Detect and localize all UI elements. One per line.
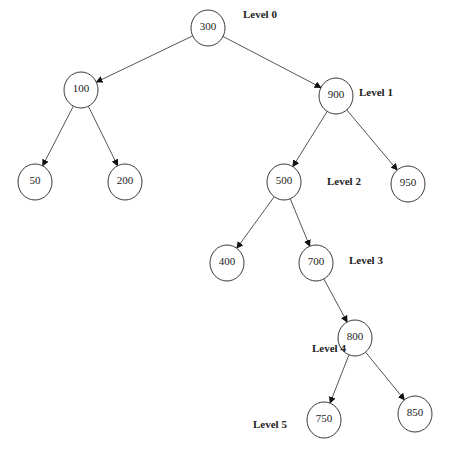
edge-100-50 bbox=[43, 106, 74, 166]
node-label: 100 bbox=[73, 82, 90, 94]
level-label-5: Level 5 bbox=[253, 418, 287, 430]
node-label: 400 bbox=[219, 255, 236, 267]
tree-node-950: 950 bbox=[391, 166, 425, 202]
node-label: 800 bbox=[347, 330, 364, 342]
edge-700-800 bbox=[324, 279, 347, 322]
level-label-1: Level 1 bbox=[359, 86, 393, 98]
edge-300-900 bbox=[223, 36, 321, 87]
level-label-3: Level 3 bbox=[349, 254, 383, 266]
tree-node-700: 700 bbox=[299, 245, 333, 281]
node-label: 50 bbox=[30, 174, 42, 186]
tree-node-850: 850 bbox=[398, 396, 432, 432]
tree-node-50: 50 bbox=[18, 164, 52, 200]
node-label: 950 bbox=[400, 176, 417, 188]
tree-diagram: 30010090050200500950400700800750850 Leve… bbox=[0, 0, 458, 452]
tree-node-300: 300 bbox=[191, 10, 225, 46]
edge-300-100 bbox=[96, 36, 192, 82]
tree-node-500: 500 bbox=[267, 164, 301, 200]
node-label: 750 bbox=[316, 412, 333, 424]
edge-500-700 bbox=[290, 199, 310, 247]
level-labels-layer: Level 0 Level 1 Level 2 Level 3 Level 4 … bbox=[243, 8, 393, 430]
tree-node-400: 400 bbox=[210, 245, 244, 281]
edge-900-500 bbox=[293, 111, 327, 166]
edge-100-200 bbox=[88, 106, 117, 166]
node-label: 300 bbox=[200, 20, 217, 32]
node-label: 700 bbox=[308, 255, 325, 267]
tree-node-750: 750 bbox=[307, 402, 341, 438]
edge-800-850 bbox=[366, 352, 405, 400]
level-label-0: Level 0 bbox=[243, 8, 277, 20]
node-label: 850 bbox=[407, 406, 424, 418]
edge-900-950 bbox=[347, 110, 397, 170]
edge-800-750 bbox=[330, 355, 349, 403]
nodes-layer: 30010090050200500950400700800750850 bbox=[18, 10, 432, 438]
level-label-4: Level 4 bbox=[312, 342, 346, 354]
tree-node-100: 100 bbox=[64, 72, 98, 108]
node-label: 900 bbox=[328, 88, 345, 100]
node-label: 500 bbox=[276, 174, 293, 186]
level-label-2: Level 2 bbox=[327, 175, 361, 187]
tree-node-200: 200 bbox=[108, 164, 142, 200]
edge-500-400 bbox=[237, 197, 274, 249]
node-label: 200 bbox=[117, 174, 134, 186]
tree-node-900: 900 bbox=[319, 78, 353, 114]
